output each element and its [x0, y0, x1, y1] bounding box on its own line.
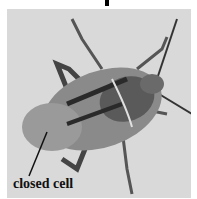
insect-photo: closed cell	[7, 9, 191, 198]
insect-illustration	[7, 9, 191, 198]
closed-cell-label: closed cell	[13, 176, 73, 192]
title-fragment	[105, 0, 109, 6]
